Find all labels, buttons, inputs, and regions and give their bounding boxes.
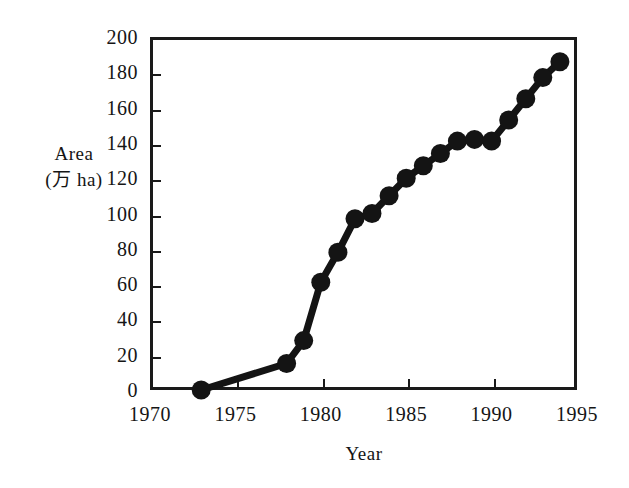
x-axis-title: Year bbox=[150, 443, 578, 465]
y-axis-tick-label: 180 bbox=[78, 62, 138, 82]
y-axis-tick-label: 40 bbox=[78, 309, 138, 329]
y-axis-tick bbox=[153, 180, 161, 182]
x-axis-tick bbox=[323, 379, 325, 387]
y-axis-tick-label: 200 bbox=[78, 27, 138, 47]
y-axis-tick-label: 120 bbox=[78, 168, 138, 188]
x-axis-tick-label: 1970 bbox=[115, 404, 185, 424]
y-axis-tick bbox=[153, 74, 161, 76]
x-axis-tick bbox=[237, 379, 239, 387]
y-axis-tick bbox=[153, 110, 161, 112]
y-axis-tick-label: 0 bbox=[78, 380, 138, 400]
y-axis-tick-label: 160 bbox=[78, 98, 138, 118]
x-axis-tick bbox=[494, 379, 496, 387]
y-axis-tick bbox=[153, 145, 161, 147]
x-axis-tick bbox=[408, 379, 410, 387]
y-axis-tick-label: 140 bbox=[78, 133, 138, 153]
y-axis-tick-label: 60 bbox=[78, 274, 138, 294]
x-axis-tick-label: 1985 bbox=[371, 404, 441, 424]
y-axis-tick bbox=[153, 251, 161, 253]
x-axis-tick-label: 1980 bbox=[286, 404, 356, 424]
y-axis-tick bbox=[153, 286, 161, 288]
y-axis-tick-label: 20 bbox=[78, 345, 138, 365]
y-axis-tick bbox=[153, 321, 161, 323]
y-axis-tick bbox=[153, 216, 161, 218]
x-axis-tick-label: 1975 bbox=[200, 404, 270, 424]
y-axis-tick bbox=[153, 357, 161, 359]
y-axis-tick-label: 80 bbox=[78, 239, 138, 259]
plot-area bbox=[150, 37, 577, 390]
x-axis-tick-label: 1990 bbox=[457, 404, 527, 424]
chart-figure: Area (万 ha) Year 02040608010012014016018… bbox=[0, 0, 629, 488]
x-axis-tick-label: 1995 bbox=[542, 404, 612, 424]
y-axis-tick-label: 100 bbox=[78, 204, 138, 224]
